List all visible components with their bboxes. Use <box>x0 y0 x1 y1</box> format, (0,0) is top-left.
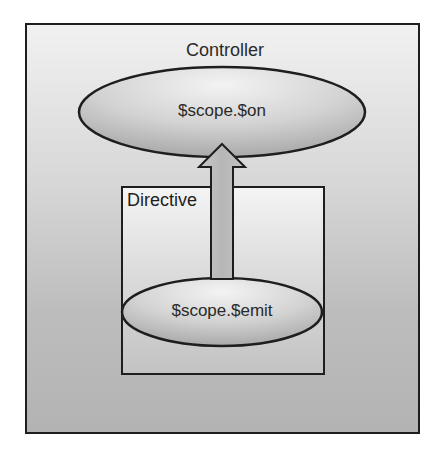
up-arrow-icon <box>199 144 245 279</box>
scope-on-label: $scope.$on <box>122 101 322 121</box>
scope-emit-label: $scope.$emit <box>122 301 322 321</box>
diagram-shapes <box>0 0 440 453</box>
emit-event-diagram: Controller Directive $scope.$on $scope.$… <box>0 0 440 453</box>
